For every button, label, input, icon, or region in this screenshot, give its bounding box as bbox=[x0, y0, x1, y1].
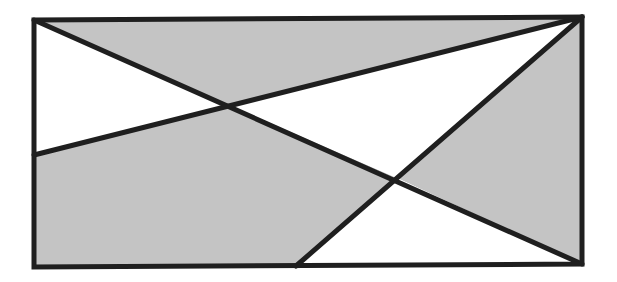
rectangle-partition-diagram bbox=[0, 0, 617, 282]
